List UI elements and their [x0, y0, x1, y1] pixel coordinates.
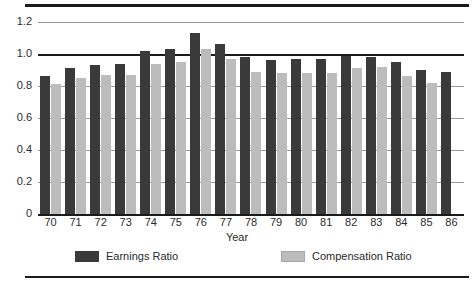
bar-group [140, 22, 162, 214]
bar-compensation-ratio [51, 84, 61, 214]
dark-swatch [75, 251, 99, 262]
bar-group [441, 22, 463, 214]
y-axis-tick-label: 1.2 [17, 16, 32, 27]
bar-earnings-ratio [341, 56, 351, 214]
x-axis-tick-labels: 7071727374757677787980818283848586 [38, 216, 464, 232]
x-axis-tick-label: 78 [239, 216, 263, 229]
bar-compensation-ratio [126, 75, 136, 214]
bar-earnings-ratio [441, 72, 451, 214]
x-axis-tick-label: 76 [189, 216, 213, 229]
x-axis-tick-label: 70 [39, 216, 63, 229]
bar-group [391, 22, 413, 214]
bar-group [40, 22, 62, 214]
bar-compensation-ratio [327, 73, 337, 214]
x-axis-title: Year [0, 231, 474, 243]
x-axis-tick-label: 81 [314, 216, 338, 229]
bar-compensation-ratio [302, 73, 312, 214]
bar-group [165, 22, 187, 214]
bar-compensation-ratio [76, 78, 86, 214]
y-axis-tick-label: 0 [26, 208, 32, 219]
bar-compensation-ratio [226, 59, 236, 214]
bar-chart: 00.20.40.60.81.01.2 70717273747576777879… [0, 0, 474, 285]
bar-group [190, 22, 212, 214]
y-axis-tick-label: 1.0 [17, 48, 32, 59]
bar-earnings-ratio [115, 64, 125, 214]
legend-item-earnings-ratio: Earnings Ratio [75, 250, 178, 262]
bar-earnings-ratio [316, 59, 326, 214]
bar-group [266, 22, 288, 214]
legend-item-compensation-ratio: Compensation Ratio [281, 250, 412, 262]
bar-earnings-ratio [140, 51, 150, 214]
x-axis-tick-label: 85 [414, 216, 438, 229]
bar-earnings-ratio [165, 49, 175, 214]
bar-compensation-ratio [101, 75, 111, 214]
x-axis-tick-label: 74 [139, 216, 163, 229]
bar-compensation-ratio [176, 62, 186, 214]
x-axis-tick-label: 82 [339, 216, 363, 229]
bar-group [291, 22, 313, 214]
x-axis-tick-label: 80 [289, 216, 313, 229]
bar-group [341, 22, 363, 214]
bar-earnings-ratio [240, 57, 250, 214]
bar-compensation-ratio [427, 83, 437, 214]
bar-compensation-ratio [151, 64, 161, 214]
legend-label: Earnings Ratio [106, 250, 178, 262]
x-axis-tick-label: 75 [164, 216, 188, 229]
x-axis-tick-label: 73 [114, 216, 138, 229]
bar-compensation-ratio [352, 68, 362, 214]
bar-earnings-ratio [391, 62, 401, 214]
bar-earnings-ratio [65, 68, 75, 214]
bar-group [90, 22, 112, 214]
x-axis-tick-label: 84 [389, 216, 413, 229]
bar-earnings-ratio [190, 33, 200, 214]
x-axis-tick-label: 72 [89, 216, 113, 229]
bar-earnings-ratio [416, 70, 426, 214]
y-axis-tick-label: 0.8 [17, 80, 32, 91]
bar-group [240, 22, 262, 214]
bar-group [416, 22, 438, 214]
bar-compensation-ratio [251, 72, 261, 214]
x-axis-tick-label: 77 [214, 216, 238, 229]
bar-group [115, 22, 137, 214]
x-axis-tick-label: 86 [439, 216, 463, 229]
bar-earnings-ratio [90, 65, 100, 214]
bar-group [65, 22, 87, 214]
bar-compensation-ratio [201, 49, 211, 214]
bar-group [316, 22, 338, 214]
x-axis-tick-label: 83 [364, 216, 388, 229]
y-axis-tick-label: 0.4 [17, 144, 32, 155]
x-axis-tick-label: 71 [64, 216, 88, 229]
bar-earnings-ratio [266, 60, 276, 214]
bar-compensation-ratio [377, 67, 387, 214]
bar-compensation-ratio [277, 73, 287, 214]
y-axis-tick-label: 0.2 [17, 176, 32, 187]
y-axis-tick-label: 0.6 [17, 112, 32, 123]
bar-earnings-ratio [215, 44, 225, 214]
bar-group [215, 22, 237, 214]
bar-earnings-ratio [40, 76, 50, 214]
bar-compensation-ratio [402, 76, 412, 214]
bar-group [366, 22, 388, 214]
chart-legend: Earnings Ratio Compensation Ratio [0, 250, 474, 268]
x-axis-tick-label: 79 [264, 216, 288, 229]
legend-label: Compensation Ratio [312, 250, 412, 262]
light-swatch [281, 251, 305, 262]
bar-earnings-ratio [366, 57, 376, 214]
bar-earnings-ratio [291, 59, 301, 214]
